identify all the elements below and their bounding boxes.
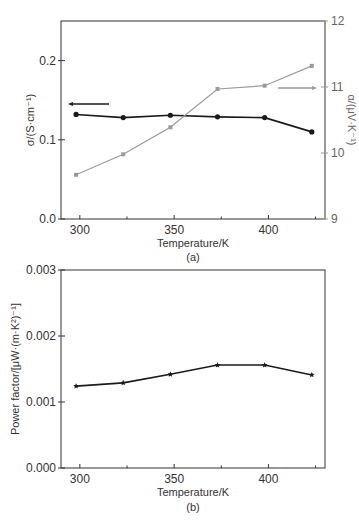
x-tick-label: 350 — [164, 223, 184, 237]
series-line — [76, 66, 312, 175]
chart-panel-b: 300350400 0.0000.0010.0020.003 Temperatu… — [9, 263, 325, 513]
data-series — [73, 64, 314, 177]
y-tick-label: 0.002 — [26, 329, 56, 343]
y-axis-ticks: 0.0000.0010.0020.003 — [26, 263, 65, 475]
data-point — [120, 380, 126, 385]
y-right-tick-label: 9 — [331, 212, 338, 226]
panel-label: (b) — [186, 501, 199, 513]
data-point — [73, 112, 78, 117]
x-axis-title: Temperature/K — [157, 486, 230, 498]
data-point — [168, 371, 174, 376]
data-point — [121, 115, 126, 120]
data-point — [121, 152, 125, 156]
y-right-tick-label: 10 — [331, 146, 345, 160]
x-axis-ticks: 300350400 — [70, 215, 316, 237]
panel-label: (a) — [186, 251, 199, 263]
y-right-tick-label: 11 — [331, 80, 344, 94]
y-axis-title: Power factor/[μW·(m·K²)⁻¹] — [9, 303, 21, 435]
y-right-axis-title: α/(μV·K⁻¹) — [346, 94, 358, 145]
x-tick-label: 400 — [258, 223, 278, 237]
data-point — [310, 64, 314, 68]
y-axis-title: σ/(S·cm⁻¹) — [24, 94, 36, 147]
x-tick-label: 350 — [164, 472, 184, 486]
arrow-left-icon — [68, 102, 109, 106]
y-right-tick-label: 12 — [331, 14, 345, 28]
data-point — [168, 125, 172, 129]
data-point — [73, 383, 79, 388]
figure: 300350400 0.00.10.2 9101112 Temperature/… — [0, 0, 359, 525]
data-point — [215, 362, 221, 367]
plot-frame — [61, 21, 325, 219]
data-point — [215, 114, 220, 119]
x-tick-label: 300 — [70, 472, 90, 486]
data-point — [262, 362, 268, 367]
chart-panel-a: 300350400 0.00.10.2 9101112 Temperature/… — [24, 14, 358, 263]
series-line — [76, 114, 312, 131]
data-point — [216, 87, 220, 91]
data-series — [73, 362, 314, 389]
data-point — [168, 113, 173, 118]
y-tick-label: 0.2 — [39, 54, 56, 68]
x-tick-label: 300 — [70, 223, 90, 237]
y-tick-label: 0.0 — [39, 212, 56, 226]
x-axis-ticks: 300350400 — [70, 464, 316, 486]
data-point — [262, 115, 267, 120]
y-tick-label: 0.1 — [39, 133, 56, 147]
y-tick-label: 0.000 — [26, 461, 56, 475]
x-tick-label: 400 — [258, 472, 278, 486]
y-tick-label: 0.001 — [26, 395, 56, 409]
arrow-right-icon — [278, 86, 317, 90]
data-point — [74, 173, 78, 177]
y-tick-label: 0.003 — [26, 263, 56, 277]
data-point — [263, 84, 267, 88]
data-point — [309, 129, 314, 134]
series-line — [76, 365, 312, 386]
data-point — [309, 372, 315, 377]
x-axis-title: Temperature/K — [157, 237, 230, 249]
